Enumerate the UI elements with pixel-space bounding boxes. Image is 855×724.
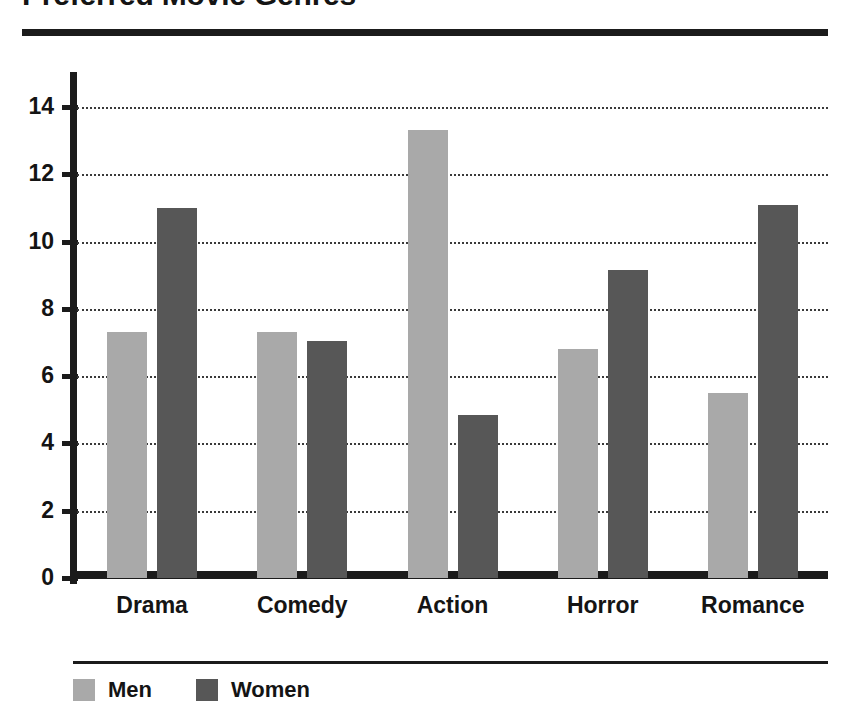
legend-label-men: Men: [108, 677, 152, 703]
x-tick-label-horror: Horror: [528, 592, 678, 619]
bar-romance-women: [758, 205, 798, 579]
legend-item-women: Women: [196, 677, 310, 703]
x-tick-label-romance: Romance: [678, 592, 828, 619]
legend-divider: [73, 661, 828, 664]
plot-area: 02468101214 DramaComedyActionHorrorRoman…: [0, 0, 855, 600]
bars-layer: [0, 0, 855, 600]
women-swatch: [196, 679, 218, 701]
x-tick-label-comedy: Comedy: [227, 592, 377, 619]
bar-action-women: [458, 415, 498, 578]
legend: MenWomen: [73, 677, 354, 703]
bar-comedy-women: [307, 341, 347, 578]
bar-comedy-men: [257, 332, 297, 578]
chart-page: Preferred Movie Genres 02468101214 Drama…: [0, 0, 855, 724]
bar-horror-men: [558, 349, 598, 578]
x-tick-label-action: Action: [377, 592, 527, 619]
bar-horror-women: [608, 270, 648, 578]
bar-drama-women: [157, 208, 197, 578]
bar-drama-men: [107, 332, 147, 578]
x-tick-label-drama: Drama: [77, 592, 227, 619]
legend-label-women: Women: [231, 677, 310, 703]
legend-item-men: Men: [73, 677, 152, 703]
men-swatch: [73, 679, 95, 701]
bar-romance-men: [708, 393, 748, 578]
bar-action-men: [408, 130, 448, 578]
